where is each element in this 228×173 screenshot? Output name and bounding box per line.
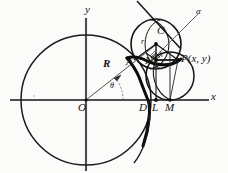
dot-N bbox=[154, 58, 158, 62]
point-p-label: P(x, y) bbox=[181, 53, 210, 64]
point-m-label: M bbox=[165, 102, 174, 113]
dot-P bbox=[177, 58, 181, 62]
radius-R-label: R bbox=[103, 58, 110, 69]
figure-canvas bbox=[0, 0, 228, 173]
center-c-label: C bbox=[157, 25, 164, 36]
angle-theta-label: θ bbox=[110, 82, 114, 90]
y-axis-label: y bbox=[85, 4, 90, 15]
dot-C bbox=[154, 42, 158, 46]
geometry-figure: y x O C N A D L M P(x, y) r R θ α bbox=[0, 0, 228, 173]
origin-label: O bbox=[78, 102, 86, 113]
radius-r-label: r bbox=[141, 38, 144, 46]
axis-speck bbox=[33, 95, 34, 96]
alpha-label: α bbox=[196, 7, 201, 16]
point-d-label: D bbox=[139, 102, 147, 113]
point-n-label: N bbox=[145, 55, 152, 66]
x-axis-label: x bbox=[211, 91, 216, 102]
point-a-label: A bbox=[126, 56, 133, 67]
point-l-label: L bbox=[152, 102, 158, 113]
figure-background bbox=[0, 0, 228, 173]
